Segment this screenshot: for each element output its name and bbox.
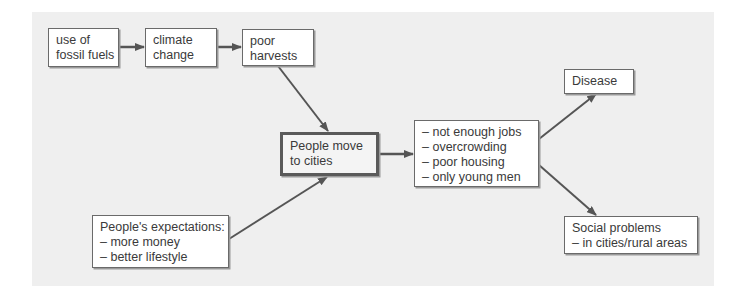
node-text: – overcrowding — [422, 140, 531, 155]
node-text: – only young men — [422, 170, 531, 185]
node-text: poor — [250, 34, 306, 49]
node-text: – more money — [100, 235, 221, 250]
node-text: to cities — [290, 154, 369, 169]
node-text: change — [153, 48, 209, 63]
node-disease: Disease — [564, 69, 634, 94]
node-text: – in cities/rural areas — [572, 236, 690, 251]
node-climate-change: climate change — [145, 28, 217, 67]
arrow-problems-to-social — [539, 165, 596, 215]
node-text: fossil fuels — [56, 48, 111, 63]
arrow-harvests-to-move — [278, 66, 328, 131]
node-text: People's expectations: — [100, 220, 221, 235]
node-poor-harvests: poor harvests — [242, 29, 314, 66]
node-text: climate — [153, 33, 209, 48]
node-social-problems: Social problems – in cities/rural areas — [564, 216, 698, 254]
arrow-problems-to-disease — [539, 94, 596, 139]
node-text: People move — [290, 139, 369, 154]
node-people-move-to-cities: People move to cities — [280, 132, 379, 176]
node-urban-problems-list: – not enough jobs – overcrowding – poor … — [414, 120, 539, 187]
node-peoples-expectations: People's expectations: – more money – be… — [92, 215, 229, 268]
node-text: – poor housing — [422, 155, 531, 170]
node-text: harvests — [250, 49, 306, 64]
node-text: use of — [56, 33, 111, 48]
node-use-of-fossil-fuels: use of fossil fuels — [48, 28, 119, 67]
node-text: – not enough jobs — [422, 125, 531, 140]
node-text: Social problems — [572, 221, 690, 236]
node-text: Disease — [572, 74, 626, 89]
node-text: – better lifestyle — [100, 250, 221, 265]
arrow-expectations-to-move — [229, 177, 327, 239]
